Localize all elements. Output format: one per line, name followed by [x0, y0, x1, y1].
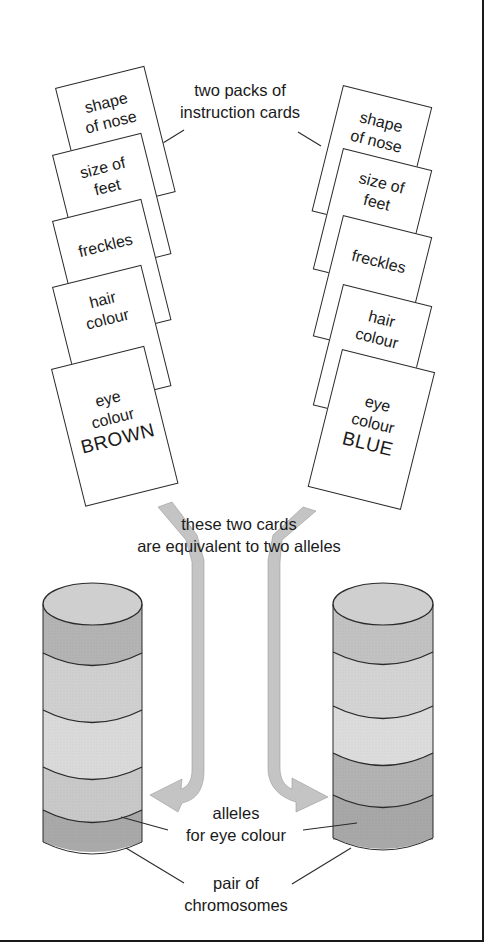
chromosomes-line2: chromosomes [168, 894, 304, 916]
packs-label-line2: instruction cards [166, 101, 314, 123]
chromosomes-line1: pair of [168, 872, 304, 894]
card-text: colour [354, 325, 400, 352]
equivalence-label: these two cards are equivalent to two al… [114, 513, 364, 557]
left-chromosome [43, 583, 142, 854]
alleles-label: alleles for eye colour [168, 802, 304, 846]
chromosomes-label: pair of chromosomes [168, 872, 304, 916]
alleles-line2: for eye colour [168, 824, 304, 846]
card-text: feet [92, 176, 122, 199]
leader-right-pack [298, 132, 321, 146]
leader-left-pack [163, 130, 184, 143]
alleles-line1: alleles [168, 802, 304, 824]
card-text: feet [362, 191, 392, 214]
right-chromosome [333, 583, 433, 850]
equivalence-line1: these two cards [114, 513, 364, 535]
packs-label: two packs of instruction cards [166, 79, 314, 123]
equivalence-line2: are equivalent to two alleles [114, 535, 364, 557]
packs-label-line1: two packs of [166, 79, 314, 101]
card-text: size of [78, 154, 127, 182]
card-text: eye [93, 387, 122, 410]
card-text: hair [367, 307, 397, 330]
card-text: eye [363, 392, 392, 415]
